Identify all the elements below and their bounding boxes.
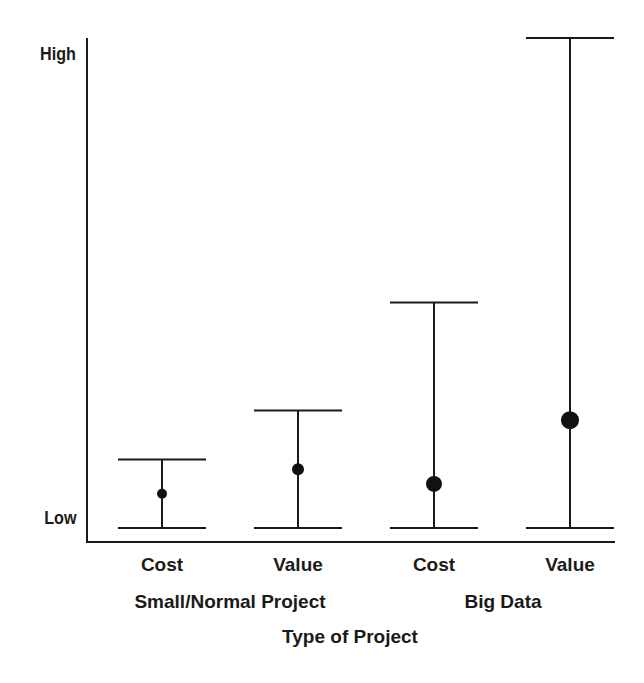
error-bar-big-data-cost — [390, 303, 478, 528]
data-point-marker — [426, 476, 442, 492]
x-label-small-value: Value — [273, 554, 323, 575]
y-label-high: High — [40, 43, 76, 65]
error-bars — [118, 38, 614, 528]
group-label-small-normal: Small/Normal Project — [134, 591, 326, 612]
error-bar-chart: High Low Cost Value Cost Value Small/Nor… — [0, 0, 644, 683]
error-bar-small-normal-project-value — [254, 410, 342, 528]
x-axis-title: Type of Project — [282, 626, 419, 647]
x-label-small-cost: Cost — [141, 554, 184, 575]
group-label-big-data: Big Data — [464, 591, 542, 612]
data-point-marker — [157, 489, 167, 499]
data-point-marker — [292, 463, 304, 475]
y-label-low: Low — [44, 507, 77, 529]
error-bar-big-data-value — [526, 38, 614, 528]
x-label-bigdata-cost: Cost — [413, 554, 456, 575]
x-label-bigdata-value: Value — [545, 554, 595, 575]
data-point-marker — [561, 411, 579, 429]
error-bar-small-normal-project-cost — [118, 459, 206, 528]
